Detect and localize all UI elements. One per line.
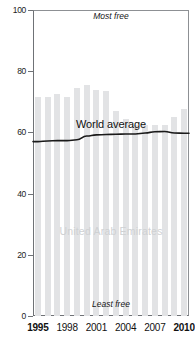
bar bbox=[45, 97, 51, 316]
x-axis-tick-label: 2007 bbox=[144, 322, 165, 333]
line-series-label: World average bbox=[76, 118, 146, 130]
y-axis-tick-label: 0 bbox=[2, 311, 26, 321]
x-axis-tick-label: 2001 bbox=[86, 322, 107, 333]
y-axis-tick-label: 60 bbox=[2, 127, 26, 137]
bar bbox=[171, 117, 177, 316]
bar-series-label: United Arab Emirates bbox=[59, 225, 162, 237]
y-axis-tick-mark bbox=[28, 316, 33, 317]
x-axis-tick-label: 1995 bbox=[27, 322, 48, 333]
bar-series-united-arab-emirates bbox=[33, 10, 189, 316]
x-axis-tick-label: 2010 bbox=[173, 322, 194, 333]
bar bbox=[113, 111, 119, 316]
bar bbox=[123, 119, 129, 316]
economic-freedom-chart: 020406080100 199519982001200420072010 Mo… bbox=[0, 0, 195, 343]
bar bbox=[162, 125, 168, 316]
y-axis-tick-label: 100 bbox=[2, 5, 26, 15]
annotation-least-free: Least free bbox=[92, 299, 130, 309]
y-axis-tick-label: 80 bbox=[2, 66, 26, 76]
bar bbox=[35, 97, 41, 316]
x-axis-tick-label: 2004 bbox=[115, 322, 136, 333]
annotation-most-free: Most free bbox=[93, 11, 128, 21]
x-axis-tick-label: 1998 bbox=[56, 322, 77, 333]
bar bbox=[181, 109, 187, 316]
bar bbox=[132, 125, 138, 316]
bar bbox=[54, 94, 60, 316]
bar bbox=[142, 125, 148, 316]
y-axis-tick-label: 40 bbox=[2, 189, 26, 199]
bar bbox=[64, 97, 70, 316]
bar bbox=[152, 125, 158, 316]
y-axis-tick-label: 20 bbox=[2, 250, 26, 260]
